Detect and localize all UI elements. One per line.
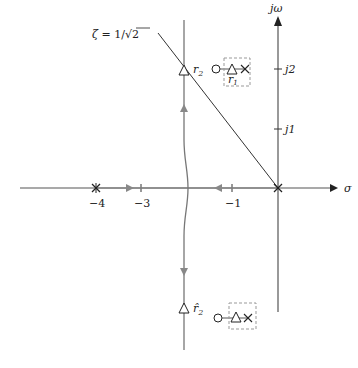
tick-label-j2: j2 bbox=[282, 63, 295, 76]
real-axis-arrow-icon bbox=[330, 184, 338, 192]
locus-arrow-down-icon bbox=[180, 268, 188, 276]
dashed-box-lower bbox=[229, 303, 256, 329]
r1-label: r1 bbox=[228, 73, 238, 87]
tick-label-j1: j1 bbox=[282, 123, 295, 136]
imag-axis-arrow-icon bbox=[274, 16, 282, 26]
r2-hat-label: r̂2 bbox=[193, 302, 203, 317]
root-r2-hat: r̂2 bbox=[179, 302, 203, 317]
cluster-lower bbox=[214, 303, 256, 329]
imag-axis-label: jω bbox=[267, 2, 282, 15]
root-locus-branches bbox=[96, 20, 278, 350]
damping-line-label: ζ = 1/√2 bbox=[92, 28, 139, 41]
locus-arrow-right-icon bbox=[126, 184, 134, 192]
tick-label-minus-4: −4 bbox=[89, 197, 105, 210]
r2-label: r2 bbox=[193, 63, 203, 78]
locus-arrow-left-icon bbox=[214, 184, 222, 192]
real-axis-label: σ bbox=[344, 182, 352, 195]
cluster-upper: r1 bbox=[212, 58, 250, 87]
locus-arrow-up-icon bbox=[180, 104, 188, 112]
root-locus-plot: σ jω −4 −3 −1 j1 j2 ζ = 1/√2 bbox=[0, 0, 358, 368]
tick-label-minus-1: −1 bbox=[225, 197, 241, 210]
imag-ticks: j1 j2 bbox=[274, 63, 295, 136]
tick-label-minus-3: −3 bbox=[134, 197, 150, 210]
imag-axis: jω bbox=[267, 2, 282, 312]
